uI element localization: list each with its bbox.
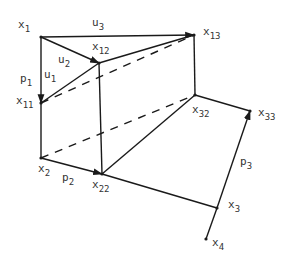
edge [194,35,195,95]
edge [102,95,195,174]
node-label-x1: x1 [18,18,30,34]
node-point-x33 [248,109,251,112]
edge [206,208,217,239]
node-point-x11 [39,101,42,104]
labels-group: x1x12x13x11x2x22x32x33x3x4u3u2u1p1p2p3 [16,16,275,252]
arrow-edge [41,35,194,37]
edge-label-u2: u2 [58,53,70,69]
node-label-x13: x13 [203,25,220,41]
edge-label-u3: u3 [92,16,104,32]
node-label-x32: x32 [192,103,209,119]
edge [99,35,194,63]
arrow-edge [41,158,102,174]
dashed-edge [41,95,195,158]
edges-group [41,35,250,239]
edge [99,63,102,174]
node-point-x2 [39,156,42,159]
node-point-x3 [215,206,218,209]
node-point-x13 [192,33,195,36]
dashed-edge [41,35,194,103]
node-point-x22 [100,172,103,175]
edge-label-u1: u1 [44,68,56,84]
node-label-x11: x11 [16,94,33,110]
node-point-x32 [193,93,196,96]
edge-label-p3: p3 [240,155,252,171]
edge-label-p2: p2 [62,171,74,187]
node-label-x33: x33 [258,106,275,122]
edge [102,174,217,208]
node-label-x22: x22 [92,178,109,194]
node-point-x12 [97,61,100,64]
node-point-x1 [39,35,42,38]
node-label-x4: x4 [212,236,224,252]
node-label-x2: x2 [38,162,50,178]
node-label-x3: x3 [228,198,240,214]
network-diagram: x1x12x13x11x2x22x32x33x3x4u3u2u1p1p2p3 [0,0,290,259]
node-point-x4 [204,237,207,240]
edge-label-p1: p1 [20,72,32,88]
node-label-x12: x12 [92,40,109,56]
